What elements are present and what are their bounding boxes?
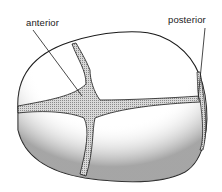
anterior-label: anterior bbox=[26, 17, 59, 28]
skull-diagram bbox=[0, 0, 222, 192]
posterior-label: posterior bbox=[168, 14, 206, 25]
